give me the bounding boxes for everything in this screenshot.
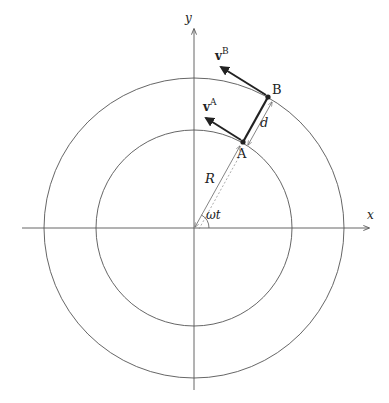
radius-label: R [204,171,215,186]
velocity-b-label: vB [214,46,229,63]
point-b [265,94,270,99]
velocity-a-sup: A [209,97,217,107]
velocity-b-sup: B [222,46,229,56]
point-b-label: B [272,82,282,97]
angle-label: ωt [206,208,221,222]
velocity-a-vector [206,118,241,140]
point-a [240,139,245,144]
point-a-label: A [236,146,247,161]
rotating-frame-diagram: x y R ωt d A B vA vB [0,0,389,403]
x-axis-label: x [367,208,374,222]
distance-label: d [260,115,268,130]
velocity-a-label: vA [202,97,217,114]
velocity-b-vector [221,67,266,95]
y-axis-label: y [184,11,192,25]
